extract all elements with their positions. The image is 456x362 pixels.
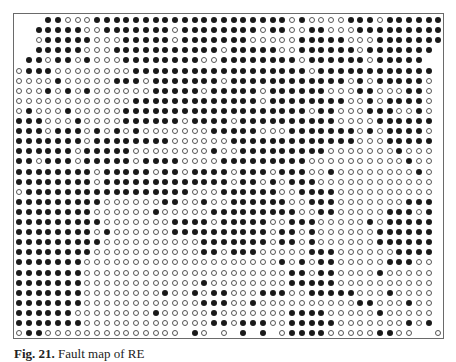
hollow-dot: [153, 249, 159, 255]
filled-dot: [133, 27, 139, 33]
filled-dot: [299, 47, 305, 53]
hollow-dot: [133, 148, 139, 154]
filled-dot: [231, 98, 237, 104]
filled-dot: [192, 179, 198, 185]
filled-dot: [318, 310, 324, 316]
hollow-dot: [221, 47, 227, 53]
filled-dot: [114, 189, 120, 195]
hollow-dot: [289, 47, 295, 53]
hollow-dot: [338, 229, 344, 235]
filled-dot: [36, 189, 42, 195]
hollow-dot: [348, 158, 354, 164]
filled-dot: [270, 78, 276, 84]
filled-dot: [240, 189, 246, 195]
filled-dot: [16, 320, 22, 326]
hollow-dot: [309, 209, 315, 215]
filled-dot: [104, 148, 110, 154]
filled-dot: [192, 57, 198, 63]
filled-dot: [240, 27, 246, 33]
hollow-dot: [75, 88, 81, 94]
hollow-dot: [104, 270, 110, 276]
hollow-dot: [328, 229, 334, 235]
filled-dot: [250, 17, 256, 23]
hollow-dot: [318, 158, 324, 164]
filled-dot: [309, 98, 315, 104]
filled-dot: [26, 229, 32, 235]
filled-dot: [299, 310, 305, 316]
filled-dot: [289, 330, 295, 336]
filled-dot: [201, 68, 207, 74]
hollow-dot: [36, 88, 42, 94]
filled-dot: [182, 57, 188, 63]
filled-dot: [45, 47, 51, 53]
filled-dot: [250, 128, 256, 134]
hollow-dot: [387, 169, 393, 175]
filled-dot: [16, 300, 22, 306]
hollow-dot: [123, 98, 129, 104]
hollow-dot: [94, 300, 100, 306]
filled-dot: [348, 68, 354, 74]
filled-dot: [16, 290, 22, 296]
filled-dot: [221, 98, 227, 104]
hollow-dot: [192, 320, 198, 326]
filled-dot: [16, 118, 22, 124]
filled-dot: [36, 229, 42, 235]
filled-dot: [240, 108, 246, 114]
filled-dot: [75, 189, 81, 195]
filled-dot: [45, 209, 51, 215]
filled-dot: [75, 290, 81, 296]
hollow-dot: [416, 300, 422, 306]
filled-dot: [26, 310, 32, 316]
filled-dot: [299, 158, 305, 164]
hollow-dot: [338, 209, 344, 215]
hollow-dot: [153, 128, 159, 134]
hollow-dot: [270, 249, 276, 255]
filled-dot: [309, 249, 315, 255]
hollow-dot: [104, 259, 110, 265]
filled-dot: [318, 148, 324, 154]
filled-dot: [65, 57, 71, 63]
filled-dot: [153, 37, 159, 43]
filled-dot: [406, 199, 412, 205]
filled-dot: [318, 259, 324, 265]
hollow-dot: [201, 259, 207, 265]
filled-dot: [162, 169, 168, 175]
filled-dot: [16, 158, 22, 164]
hollow-dot: [84, 27, 90, 33]
hollow-dot: [318, 300, 324, 306]
hollow-dot: [270, 259, 276, 265]
filled-dot: [65, 320, 71, 326]
hollow-dot: [211, 259, 217, 265]
hollow-dot: [426, 98, 432, 104]
hollow-dot: [221, 270, 227, 276]
filled-dot: [172, 98, 178, 104]
hollow-dot: [182, 138, 188, 144]
hollow-dot: [416, 209, 422, 215]
hollow-dot: [104, 57, 110, 63]
hollow-dot: [65, 98, 71, 104]
filled-dot: [309, 57, 315, 63]
filled-dot: [328, 138, 334, 144]
filled-dot: [387, 239, 393, 245]
hollow-dot: [387, 249, 393, 255]
hollow-dot: [201, 88, 207, 94]
hollow-dot: [299, 209, 305, 215]
hollow-dot: [36, 78, 42, 84]
hollow-dot: [94, 179, 100, 185]
hollow-dot: [182, 209, 188, 215]
filled-dot: [396, 138, 402, 144]
hollow-dot: [16, 189, 22, 195]
filled-dot: [221, 239, 227, 245]
filled-dot: [348, 47, 354, 53]
filled-dot: [162, 199, 168, 205]
filled-dot: [26, 219, 32, 225]
hollow-dot: [338, 280, 344, 286]
hollow-dot: [231, 290, 237, 296]
filled-dot: [192, 27, 198, 33]
hollow-dot: [289, 17, 295, 23]
filled-dot: [94, 199, 100, 205]
hollow-dot: [260, 98, 266, 104]
hollow-dot: [270, 219, 276, 225]
hollow-dot: [182, 128, 188, 134]
filled-dot: [260, 158, 266, 164]
